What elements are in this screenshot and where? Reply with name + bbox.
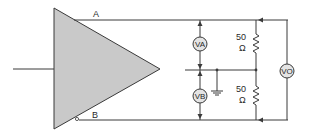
resistor-bottom-unit: Ω bbox=[239, 95, 246, 105]
output-b-label: B bbox=[92, 110, 98, 120]
resistor-top-unit: Ω bbox=[239, 43, 246, 53]
circuit-diagram: A B VA VB 50 Ω 50 Ω VO bbox=[0, 0, 309, 135]
vb-meter-label: VB bbox=[195, 92, 206, 101]
resistor-bottom-icon bbox=[253, 86, 259, 105]
arrow-down-icon bbox=[198, 64, 203, 69]
arrow-left-icon bbox=[258, 18, 263, 23]
resistor-bottom-value: 50 bbox=[236, 84, 246, 94]
va-meter-label: VA bbox=[195, 40, 206, 49]
output-a-label: A bbox=[93, 9, 99, 19]
arrow-left-icon bbox=[258, 118, 263, 123]
amplifier-triangle bbox=[54, 8, 160, 129]
arrow-up-icon bbox=[198, 21, 203, 26]
inverting-bubble-icon bbox=[75, 117, 78, 120]
resistor-top-value: 50 bbox=[236, 32, 246, 42]
vo-meter-label: VO bbox=[281, 67, 293, 76]
arrow-up-icon bbox=[198, 71, 203, 76]
resistor-top-icon bbox=[253, 34, 259, 53]
ground-icon bbox=[211, 70, 223, 95]
arrow-down-icon bbox=[198, 114, 203, 119]
